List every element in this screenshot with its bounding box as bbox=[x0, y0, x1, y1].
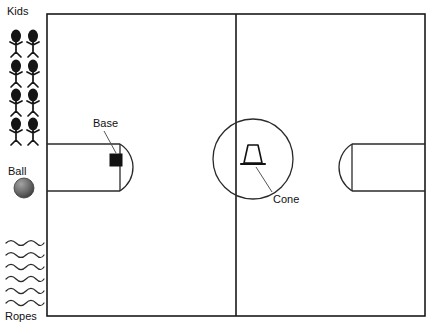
legend-ropes: Ropes bbox=[5, 241, 44, 323]
ropes-label: Ropes bbox=[5, 310, 37, 322]
stick-figure-icon bbox=[27, 118, 39, 146]
wavy-rope-icon bbox=[6, 301, 44, 306]
ball-label: Ball bbox=[8, 165, 26, 177]
wavy-rope-icon bbox=[6, 289, 44, 294]
stick-figure-icon bbox=[10, 60, 22, 88]
wavy-rope-icon bbox=[6, 253, 44, 258]
legend-ball: Ball bbox=[8, 165, 34, 198]
stick-figure-icon bbox=[10, 118, 22, 146]
cone-callout: Cone bbox=[256, 167, 299, 205]
stick-figure-icon bbox=[27, 89, 39, 117]
legend-kids: Kids bbox=[7, 5, 39, 145]
wavy-rope-icon bbox=[6, 265, 44, 270]
cone-label: Cone bbox=[273, 193, 299, 205]
diagram-canvas: Base Cone Kids bbox=[0, 0, 438, 329]
base-callout: Base bbox=[93, 117, 118, 153]
stick-figure-icon bbox=[27, 60, 39, 88]
ball-icon bbox=[14, 178, 34, 198]
left-goal-box bbox=[47, 144, 133, 191]
stick-figure-icon bbox=[10, 30, 22, 58]
base-marker bbox=[110, 154, 122, 166]
stick-figure-icon bbox=[27, 30, 39, 58]
base-label: Base bbox=[93, 117, 118, 129]
cone-icon bbox=[241, 145, 265, 164]
kids-label: Kids bbox=[7, 5, 29, 17]
wavy-rope-icon bbox=[6, 277, 44, 282]
wavy-rope-icon bbox=[6, 241, 44, 246]
right-goal-box bbox=[339, 144, 425, 191]
stick-figure-icon bbox=[10, 89, 22, 117]
field-diagram: Base Cone Kids bbox=[0, 0, 438, 329]
